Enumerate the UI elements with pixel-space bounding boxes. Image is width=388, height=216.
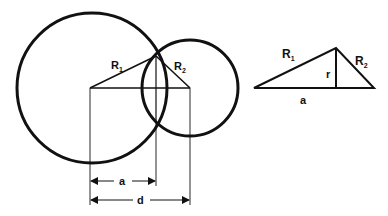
circle-intersection-diagram: R1 R2 a d R1 R2 r a xyxy=(0,0,388,216)
label-d: d xyxy=(137,194,144,206)
right-triangle-figure: R1 R2 r a xyxy=(254,47,374,106)
left-figure: R1 R2 a d xyxy=(17,13,238,206)
label-tri-r2: R2 xyxy=(355,54,368,69)
label-a: a xyxy=(119,175,126,187)
label-r1: R1 xyxy=(111,59,123,73)
label-r2: R2 xyxy=(174,60,186,74)
label-height-r: r xyxy=(326,68,331,80)
label-base-a: a xyxy=(300,94,307,106)
label-tri-r1: R1 xyxy=(282,47,295,62)
